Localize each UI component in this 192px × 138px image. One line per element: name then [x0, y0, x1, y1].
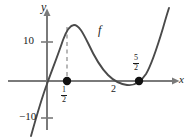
x-intercept-label-2: 2 [111, 84, 116, 94]
x-axis [8, 78, 180, 85]
y-tick-label-10: 10 [23, 35, 34, 46]
x-point-label-one-half: 1 2 [61, 86, 67, 105]
x-point-label-five-halves: 5 2 [133, 54, 139, 73]
y-axis [44, 9, 51, 131]
point-marker-five-halves [135, 77, 143, 85]
point-marker-half [63, 77, 71, 85]
x-axis-label: x [179, 74, 184, 85]
fraction-numerator: 1 [61, 86, 67, 94]
y-tick-label-negative-10: −10 [19, 111, 36, 122]
fraction-numerator: 5 [133, 54, 139, 62]
curve-label-f: f [98, 24, 101, 36]
fraction-denominator: 2 [133, 64, 139, 72]
fraction-denominator: 2 [61, 96, 67, 104]
function-graph-figure: y x 10 −10 f 2 1 2 5 2 [0, 0, 192, 138]
y-axis-label: y [41, 1, 46, 13]
